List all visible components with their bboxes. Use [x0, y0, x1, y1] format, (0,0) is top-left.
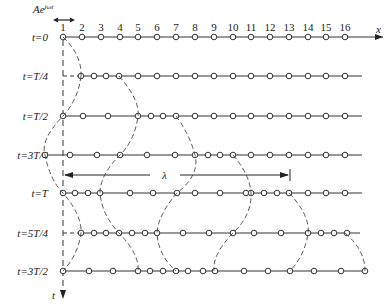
particle-circle — [286, 113, 292, 119]
particle-circle — [148, 113, 154, 119]
particle-circle — [185, 268, 191, 274]
particle-circle — [86, 268, 92, 274]
particle-number: 7 — [173, 21, 179, 33]
particle-circle — [342, 152, 348, 158]
particle-circle — [180, 230, 186, 236]
particle-circle — [286, 34, 292, 40]
particle-circle — [230, 34, 236, 40]
particle-circle — [305, 190, 311, 196]
particle-circle — [117, 34, 123, 40]
particle-circle — [248, 73, 254, 79]
particle-circle — [267, 152, 273, 158]
row-t-3t-4: t=3T/4 — [17, 149, 362, 161]
particle-circle — [241, 268, 247, 274]
particle-circle — [212, 268, 218, 274]
lambda-label: λ — [161, 169, 167, 181]
row-t-t-2: t=T/2 — [23, 110, 362, 122]
particle-circle — [110, 268, 116, 274]
particle-circle — [142, 230, 148, 236]
particle-circle — [79, 34, 85, 40]
particle-number: 11 — [246, 21, 257, 33]
row-label: t=5T/4 — [17, 227, 48, 239]
particle-circle — [144, 152, 150, 158]
particle-circle — [160, 268, 166, 274]
particle-circle — [105, 113, 111, 119]
particle-circle — [211, 113, 217, 119]
particle-circle — [192, 73, 198, 79]
particle-circle — [217, 190, 223, 196]
t-axis-arrow-icon — [60, 290, 66, 299]
particle-circle — [206, 230, 212, 236]
particle-circle — [103, 230, 109, 236]
particle-number: 8 — [192, 21, 198, 33]
particle-circle — [91, 230, 97, 236]
particle-circle — [67, 152, 73, 158]
particle-circle — [342, 34, 348, 40]
time-rows: t=0t=T/4t=T/2t=3T/4t=Tt=5T/4t=3T/2 — [17, 31, 383, 277]
particle-circle — [172, 152, 178, 158]
particle-circle — [286, 152, 292, 158]
particle-circle — [91, 73, 97, 79]
longitudinal-wave-diagram: Aejωt 12345678910111213141516 x t t=0t=T… — [0, 0, 390, 306]
particle-circle — [248, 34, 254, 40]
particle-circle — [127, 190, 133, 196]
row-label: t=0 — [32, 31, 48, 43]
particle-circle — [267, 34, 273, 40]
row-label: t=T — [31, 187, 48, 199]
particle-circle — [323, 113, 329, 119]
particle-circle — [200, 268, 206, 274]
particle-circle — [338, 268, 344, 274]
x-axis-label: x — [375, 23, 381, 35]
particle-circle — [267, 113, 273, 119]
particle-circle — [286, 73, 292, 79]
particle-circle — [192, 34, 198, 40]
particle-circle — [261, 190, 267, 196]
particle-number: 9 — [211, 21, 217, 33]
particle-circle — [230, 73, 236, 79]
particle-circle — [323, 73, 329, 79]
particle-circle — [305, 113, 311, 119]
particle-circle — [103, 73, 109, 79]
particle-numbers: 12345678910111213141516 — [60, 21, 351, 33]
row-label: t=T/2 — [23, 110, 49, 122]
particle-circle — [342, 190, 348, 196]
particle-circle — [274, 190, 280, 196]
particle-circle — [72, 190, 78, 196]
particle-number: 6 — [154, 21, 160, 33]
particle-number: 14 — [303, 21, 315, 33]
particle-circle — [342, 113, 348, 119]
particle-number: 12 — [265, 21, 276, 33]
particle-circle — [305, 152, 311, 158]
row-t-t: t=T — [31, 187, 362, 199]
particle-circle — [305, 34, 311, 40]
particle-circle — [318, 230, 324, 236]
particle-circle — [154, 34, 160, 40]
particle-circle — [135, 73, 141, 79]
particle-circle — [129, 230, 135, 236]
particle-number: 4 — [117, 21, 123, 33]
row-t-t-4: t=T/4 — [23, 70, 362, 82]
row-label: t=T/4 — [23, 70, 49, 82]
particle-circle — [154, 73, 160, 79]
particle-circle — [80, 113, 86, 119]
particle-number: 5 — [135, 21, 141, 33]
particle-circle — [265, 268, 271, 274]
particle-number: 16 — [340, 21, 352, 33]
particle-circle — [267, 73, 273, 79]
particle-circle — [230, 113, 236, 119]
particle-number: 10 — [228, 21, 240, 33]
particle-circle — [278, 230, 284, 236]
particle-circle — [323, 34, 329, 40]
particle-number: 15 — [321, 21, 333, 33]
particle-circle — [251, 230, 257, 236]
particle-circle — [305, 73, 311, 79]
particle-circle — [211, 34, 217, 40]
compression-curves — [44, 37, 365, 271]
row-label: t=3T/2 — [17, 265, 48, 277]
particle-circle — [248, 152, 254, 158]
t-axis-label: t — [52, 289, 56, 301]
row-t-3t-2: t=3T/2 — [17, 265, 367, 277]
particle-number: 1 — [60, 21, 66, 33]
particle-circle — [85, 190, 91, 196]
particle-circle — [323, 152, 329, 158]
